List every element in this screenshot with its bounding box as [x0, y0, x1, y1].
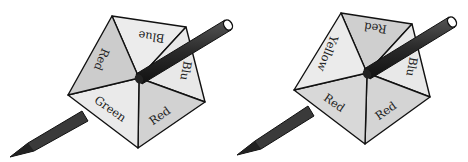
right-pencil-lower [237, 106, 314, 155]
right-spinner: Red Blu Red Red Yellow [237, 13, 458, 155]
spinners-svg: Blue Blu Red Green Red Red Blu Red Red Y… [0, 0, 468, 162]
left-pencil-lower [10, 111, 88, 157]
left-spinner: Blue Blu Red Green Red [10, 16, 234, 157]
spinners-figure: Blue Blu Red Green Red Red Blu Red Red Y… [0, 0, 468, 162]
